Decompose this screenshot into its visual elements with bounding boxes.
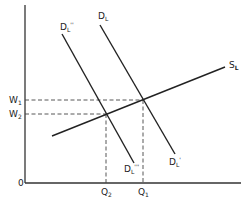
dl-bottom-label: DL' xyxy=(169,157,181,168)
supply-curve-sl xyxy=(52,67,225,136)
w2-text: W xyxy=(9,109,18,119)
dl2-bottom-text: D xyxy=(124,164,131,174)
dl-top-label: DL xyxy=(98,12,108,22)
w1-sub: 1 xyxy=(18,99,22,106)
origin-text: 0 xyxy=(18,178,24,188)
origin-label: 0 xyxy=(18,179,24,188)
demand-curve-dl2 xyxy=(62,34,134,163)
labor-market-diagram xyxy=(0,0,249,206)
dl2-top-label: DL'' xyxy=(60,22,74,33)
dl2-bottom-label: DL''' xyxy=(124,164,139,175)
sl-label: SL xyxy=(229,61,239,71)
dl-top-sub: L xyxy=(105,15,108,22)
dl2-bottom-sup: ''' xyxy=(134,163,139,170)
w2-label: W2 xyxy=(9,110,22,120)
q2-label: Q2 xyxy=(101,188,112,198)
dl2-top-text: D xyxy=(60,22,67,32)
w2-sub: 2 xyxy=(18,113,22,120)
w1-text: W xyxy=(9,95,18,105)
demand-curve-dl xyxy=(100,25,175,154)
dl-top-text: D xyxy=(98,11,105,21)
dl-bottom-text: D xyxy=(169,157,176,167)
dl-bottom-sup: ' xyxy=(179,156,181,163)
q1-label: Q1 xyxy=(138,188,149,198)
q2-sub: 2 xyxy=(108,191,112,198)
dl2-top-sup: '' xyxy=(70,21,73,28)
sl-sub: L xyxy=(235,64,239,71)
q1-sub: 1 xyxy=(145,191,149,198)
w1-label: W1 xyxy=(9,96,22,106)
